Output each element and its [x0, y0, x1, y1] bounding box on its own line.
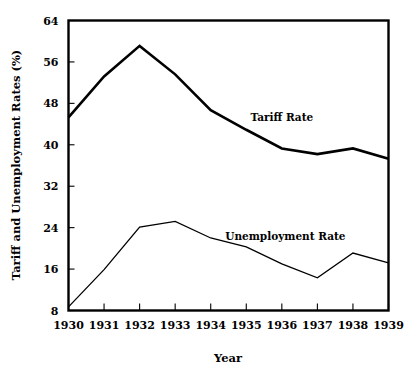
y-tick-label: 40: [43, 139, 59, 152]
x-tick-label: 1938: [338, 319, 369, 332]
series-label-unemployment-rate: Unemployment Rate: [225, 230, 346, 242]
x-tick-label: 1932: [124, 319, 155, 332]
x-tick-label: 1931: [89, 319, 120, 332]
x-tick-label: 1935: [231, 319, 262, 332]
chart-figure: 816243240485664 193019311932193319341935…: [0, 0, 412, 375]
y-tick-label: 16: [43, 263, 59, 276]
y-tick-label: 8: [51, 305, 59, 318]
y-tick-label: 32: [43, 180, 58, 193]
y-tick-label: 48: [43, 97, 59, 110]
x-tick-label: 1937: [302, 319, 333, 332]
y-tick-label: 64: [43, 15, 59, 28]
y-axis-title: Tariff and Unemployment Rates (%): [9, 50, 23, 281]
x-tick-label: 1930: [53, 319, 84, 332]
y-tick-label: 24: [43, 222, 59, 235]
x-axis-title: Year: [213, 351, 243, 365]
series-label-tariff-rate: Tariff Rate: [250, 111, 313, 123]
x-tick-label: 1936: [267, 319, 298, 332]
y-tick-label: 56: [43, 56, 59, 69]
line-chart: 816243240485664 193019311932193319341935…: [0, 0, 412, 375]
x-tick-label: 1934: [195, 319, 226, 332]
x-tick-label: 1933: [160, 319, 191, 332]
x-tick-label: 1939: [373, 319, 404, 332]
